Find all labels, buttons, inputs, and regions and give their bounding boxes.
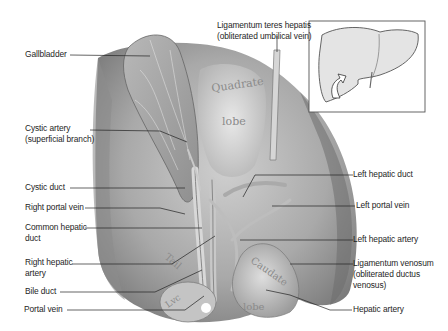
label-common-hepatic-duct: Common hepatic duct [25,222,87,244]
label-portal-vein: Portal vein [24,304,62,315]
liver-diagram: Quadrate lobe Caudate lobe Lvc Tail [0,0,448,331]
label-right-hepatic-artery: Right hepatic artery [25,257,73,279]
label-hepatic-artery: Hepatic artery [353,304,404,315]
inset-liver-view [309,21,425,112]
label-cystic-artery: Cystic artery (superficial branch) [25,123,94,145]
label-cystic-duct: Cystic duct [25,182,65,193]
label-left-hepatic-duct: Left hepatic duct [353,169,413,180]
label-ligamentum-teres: Ligamentum teres hepatis (obliterated um… [217,20,312,42]
quadrate-lobe-label-2: lobe [222,115,246,128]
label-gallbladder: Gallbladder [25,49,67,60]
label-left-portal-vein: Left portal vein [356,200,409,211]
label-ligamentum-venosum: Ligamentum venosum (obliterated ductus v… [353,258,434,291]
label-bile-duct: Bile duct [25,286,56,297]
label-right-portal-vein: Right portal vein [25,202,84,213]
label-left-hepatic-artery: Left hepatic artery [353,234,418,245]
caudate-lobe-label-2: lobe [243,301,265,312]
